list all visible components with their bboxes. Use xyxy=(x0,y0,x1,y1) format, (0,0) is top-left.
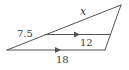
right-side xyxy=(105,5,121,50)
triangle-diagram: x 7.5 12 18 xyxy=(0,0,129,70)
label-12: 12 xyxy=(80,37,93,48)
label-18: 18 xyxy=(56,54,69,65)
base-arrow-icon xyxy=(55,47,61,53)
label-x: x xyxy=(80,5,87,18)
similar-triangles-figure: x 7.5 12 18 xyxy=(0,0,129,70)
label-7-5: 7.5 xyxy=(17,28,33,39)
